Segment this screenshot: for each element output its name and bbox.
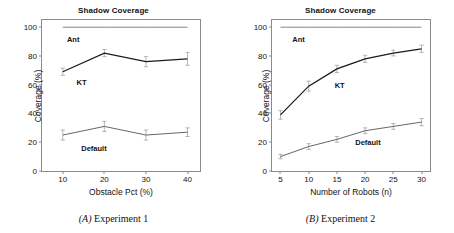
caption-b: (B) Experiment 2 [227,213,454,224]
series-label-ant: Ant [67,34,80,43]
y-tick-label-b: 20 [258,138,267,147]
caption-text-a: Experiment 1 [94,213,148,224]
x-tick-label-a: 20 [100,175,109,184]
y-tick-label-a: 60 [28,80,37,89]
y-tick-mark-a [39,142,42,143]
x-tick-label-a: 30 [141,175,150,184]
x-tick-label-b: 30 [417,175,426,184]
x-tick-label-b: 5 [278,175,282,184]
y-tick-label-a: 80 [28,51,37,60]
x-tick-label-b: 20 [361,175,370,184]
caption-a: (A) Experiment 1 [0,213,227,224]
x-tick-mark-b [280,171,281,174]
x-tick-mark-a [145,171,146,174]
x-axis-label-b: Number of Robots (n) [272,187,430,197]
x-tick-mark-b [336,171,337,174]
y-tick-mark-b [269,84,272,85]
y-tick-mark-a [39,27,42,28]
x-tick-mark-b [421,171,422,174]
x-tick-label-a: 10 [58,175,67,184]
x-tick-mark-a [62,171,63,174]
x-tick-mark-b [365,171,366,174]
series-line-kt [280,49,421,115]
caption-text-b: Experiment 2 [321,213,375,224]
y-tick-label-a: 0 [33,167,37,176]
y-tick-mark-a [39,113,42,114]
series-label-kt: KT [77,77,87,86]
panel-experiment-2: Shadow Coverage Coverage (%)020406080100… [227,0,454,233]
y-tick-label-b: 60 [258,80,267,89]
x-axis-label-a: Obstacle Pct (%) [42,187,200,197]
y-tick-label-a: 20 [28,138,37,147]
y-tick-label-b: 40 [258,109,267,118]
x-tick-label-b: 25 [389,175,398,184]
y-tick-mark-b [269,113,272,114]
series-label-kt: KT [335,80,345,89]
y-tick-label-b: 80 [258,51,267,60]
caption-tag-b: (B) [306,213,319,224]
y-tick-mark-b [269,55,272,56]
chart-title-b: Shadow Coverage [227,6,454,15]
y-tick-mark-a [39,171,42,172]
y-tick-mark-b [269,27,272,28]
chart-title-a: Shadow Coverage [0,6,227,15]
plot-area-b: Coverage (%)02040608010051015202530Numbe… [271,19,431,172]
panel-experiment-1: Shadow Coverage Coverage (%)020406080100… [0,0,227,233]
series-label-ant: Ant [292,34,305,43]
x-tick-label-b: 15 [332,175,341,184]
y-tick-label-b: 100 [254,23,267,32]
x-tick-label-a: 40 [183,175,192,184]
series-line-kt [63,53,188,72]
y-tick-label-b: 0 [263,167,267,176]
plot-lines-a [42,20,200,171]
y-tick-label-a: 40 [28,109,37,118]
x-tick-mark-a [104,171,105,174]
caption-tag-a: (A) [79,213,92,224]
series-label-default: Default [355,138,380,147]
y-tick-mark-b [269,171,272,172]
y-tick-mark-b [269,142,272,143]
y-tick-mark-a [39,84,42,85]
y-tick-mark-a [39,55,42,56]
x-tick-mark-b [393,171,394,174]
series-line-default [63,126,188,135]
x-tick-mark-a [187,171,188,174]
plot-area-a: Coverage (%)02040608010010203040Obstacle… [41,19,201,172]
x-tick-label-b: 10 [304,175,313,184]
series-line-default [280,122,421,157]
x-tick-mark-b [308,171,309,174]
series-label-default: Default [81,143,106,152]
y-tick-label-a: 100 [24,23,37,32]
figure-two-panel-line-charts: Shadow Coverage Coverage (%)020406080100… [0,0,454,233]
